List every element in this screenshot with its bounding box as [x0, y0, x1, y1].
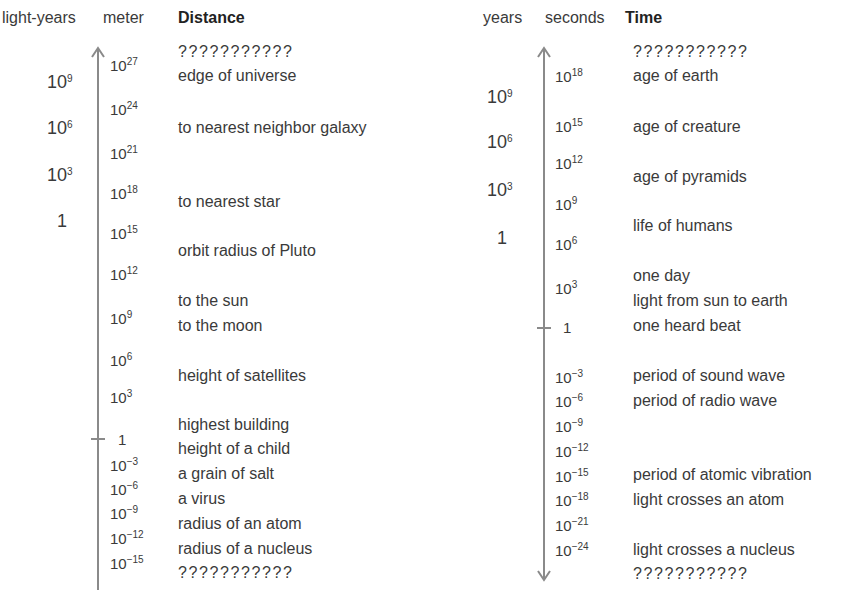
distance-label: radius of an atom: [178, 515, 302, 533]
meter-value: 1018: [110, 185, 138, 203]
ly-value: 106: [47, 119, 73, 137]
distance-label: to the moon: [178, 317, 263, 335]
time-label: one heard beat: [633, 317, 741, 335]
time-label: ???????????: [633, 565, 748, 583]
time-label: one day: [633, 267, 690, 285]
distance-label: height of a child: [178, 440, 290, 458]
meter-value: 1021: [110, 145, 138, 163]
distance-label: a virus: [178, 490, 225, 508]
time-label: age of earth: [633, 67, 718, 85]
seconds-value: 10−24: [555, 542, 589, 560]
seconds-value: 10−9: [555, 418, 583, 436]
time-label: period of sound wave: [633, 367, 785, 385]
arrow-down-icon: [537, 570, 551, 582]
ly-value: 1: [57, 212, 67, 230]
meter-value: 10−3: [110, 457, 138, 475]
years-value: 106: [487, 133, 513, 151]
seconds-value: 1012: [555, 155, 583, 173]
time-label: light from sun to earth: [633, 292, 788, 310]
time-label: light crosses a nucleus: [633, 541, 795, 559]
meter-value: 10−12: [110, 530, 144, 548]
meter-value: 10−15: [110, 555, 144, 573]
distance-label: radius of a nucleus: [178, 540, 312, 558]
seconds-value: 1018: [555, 68, 583, 86]
arrow-up-icon: [537, 46, 551, 58]
distance-label: to nearest star: [178, 193, 280, 211]
meter-value: 10−9: [110, 505, 138, 523]
time-label: age of pyramids: [633, 168, 747, 186]
arrow-up-icon: [91, 46, 105, 58]
meter-value: 1012: [110, 266, 138, 284]
time-unit-tick: [537, 327, 551, 329]
header-light-years: light-years: [2, 9, 76, 27]
time-axis-line: [543, 48, 545, 580]
time-label: period of radio wave: [633, 392, 777, 410]
seconds-value: 10−18: [555, 492, 589, 510]
ly-value: 103: [47, 166, 73, 184]
distance-label: ???????????: [178, 43, 293, 61]
distance-label: to the sun: [178, 292, 248, 310]
distance-label: to nearest neighbor galaxy: [178, 119, 367, 137]
header-time: Time: [625, 9, 662, 27]
header-years: years: [483, 9, 522, 27]
distance-label: height of satellites: [178, 367, 306, 385]
meter-value: 1: [118, 431, 126, 449]
seconds-value: 10−6: [555, 393, 583, 411]
time-label: ???????????: [633, 43, 748, 61]
distance-label: orbit radius of Pluto: [178, 242, 316, 260]
seconds-value: 10−3: [555, 369, 583, 387]
years-value: 109: [487, 88, 513, 106]
seconds-value: 103: [555, 280, 577, 298]
years-value: 103: [487, 181, 513, 199]
seconds-value: 10−12: [555, 443, 589, 461]
time-label: light crosses an atom: [633, 491, 784, 509]
distance-axis-line: [97, 48, 99, 590]
distance-label: a grain of salt: [178, 465, 274, 483]
time-label: period of atomic vibration: [633, 466, 812, 484]
meter-value: 1027: [110, 57, 138, 75]
time-label: life of humans: [633, 217, 733, 235]
distance-unit-tick: [91, 438, 105, 440]
header-distance: Distance: [178, 9, 245, 27]
distance-label: ???????????: [178, 564, 293, 582]
header-seconds: seconds: [545, 9, 605, 27]
meter-value: 1015: [110, 225, 138, 243]
meter-value: 109: [110, 310, 132, 328]
meter-value: 103: [110, 389, 132, 407]
seconds-value: 10−21: [555, 517, 589, 535]
meter-value: 106: [110, 352, 132, 370]
years-value: 1: [497, 229, 507, 247]
seconds-value: 10−15: [555, 468, 589, 486]
header-meter: meter: [103, 9, 144, 27]
seconds-value: 109: [555, 196, 577, 214]
seconds-value: 106: [555, 236, 577, 254]
distance-label: edge of universe: [178, 67, 296, 85]
ly-value: 109: [47, 73, 73, 91]
meter-value: 1024: [110, 101, 138, 119]
seconds-value: 1015: [555, 118, 583, 136]
time-label: age of creature: [633, 118, 741, 136]
distance-label: highest building: [178, 416, 289, 434]
meter-value: 10−6: [110, 481, 138, 499]
seconds-value: 1: [563, 319, 571, 337]
